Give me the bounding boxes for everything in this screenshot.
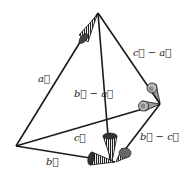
label-c: c⃗ (74, 133, 86, 143)
arrowhead-a-icon (77, 15, 97, 45)
label-b-minus-c: b⃗ − c⃗ (140, 132, 179, 142)
label-b: b⃗ (46, 157, 58, 167)
label-c-minus-a: c⃗ − a⃗ (133, 48, 171, 58)
label-b-minus-a: b⃗ − a⃗ (74, 89, 113, 99)
arrowhead-c-minus-a-icon (147, 83, 160, 103)
label-a: a⃗ (38, 74, 50, 84)
arrowhead-b-minus-c-icon (116, 148, 131, 162)
vector-diagram: a⃗ c⃗ − a⃗ b⃗ − a⃗ c⃗ b⃗ − c⃗ b⃗ (0, 0, 179, 184)
